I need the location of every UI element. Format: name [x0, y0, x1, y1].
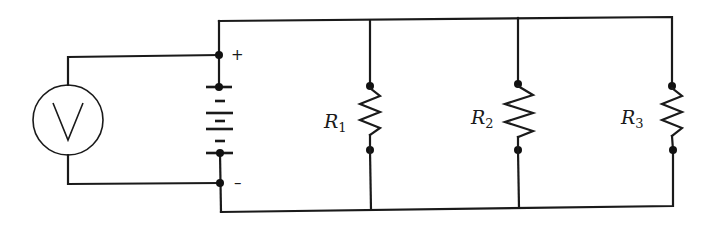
resistor-r2: R2	[470, 18, 533, 208]
circuit-diagram: + – R1 R2 R3	[0, 0, 712, 227]
voltmeter	[33, 85, 103, 155]
node-dot	[216, 149, 224, 157]
positive-terminal-label: +	[231, 46, 244, 64]
bottom-rail	[221, 150, 673, 212]
node-dot	[215, 51, 223, 59]
resistor-label-r2: R2	[470, 106, 494, 131]
resistor-zigzag-icon	[662, 88, 682, 136]
resistor-zigzag-icon	[360, 88, 380, 135]
resistor-label-r1: R1	[323, 110, 347, 135]
voltmeter-circle	[33, 85, 103, 155]
resistor-zigzag-icon	[505, 86, 533, 137]
voltmeter-leads	[68, 55, 220, 184]
resistor-r3: R3	[620, 82, 682, 154]
negative-terminal-label: –	[234, 174, 242, 192]
resistor-label-r3: R3	[620, 106, 644, 131]
battery-icon	[206, 87, 233, 153]
resistor-r1: R1	[323, 21, 380, 210]
top-rail	[219, 17, 672, 86]
voltmeter-v-glyph	[53, 103, 83, 140]
node-dot	[216, 179, 224, 187]
node-dot	[215, 83, 223, 91]
